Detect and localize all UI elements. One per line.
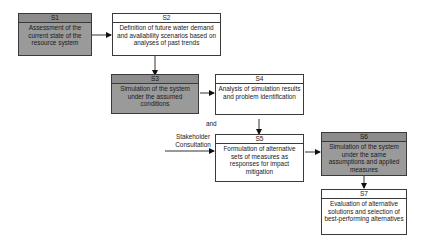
- step-s6-label: S6: [322, 133, 406, 142]
- step-s1-text: Assessment of the current state of the r…: [19, 23, 91, 48]
- step-s5-text: Formulation of alternative sets of measu…: [216, 144, 303, 176]
- step-s3-label: S3: [112, 75, 198, 84]
- and-label: and: [206, 120, 217, 128]
- step-s2: S2 Definition of future water demand and…: [112, 13, 221, 56]
- step-s2-label: S2: [113, 14, 220, 23]
- step-s5-label: S5: [216, 135, 303, 144]
- step-s2-text: Definition of future water demand and av…: [113, 23, 220, 48]
- step-s5: S5 Formulation of alternative sets of me…: [215, 134, 304, 182]
- step-s6-text: Simulation of the system under the same …: [322, 142, 406, 174]
- step-s4-text: Analysis of simulation results and probl…: [216, 84, 303, 101]
- step-s6: S6 Simulation of the system under the sa…: [321, 132, 407, 176]
- step-s1: S1 Assessment of the current state of th…: [18, 13, 92, 56]
- step-s4: S4 Analysis of simulation results and pr…: [215, 74, 304, 115]
- step-s7-text: Evaluation of alternative solutions and …: [322, 199, 406, 224]
- step-s3: S3 Simulation of the system under the as…: [111, 74, 199, 114]
- step-s7: S7 Evaluation of alternative solutions a…: [321, 189, 407, 235]
- step-s1-label: S1: [19, 14, 91, 23]
- step-s3-text: Simulation of the system under the assum…: [112, 84, 198, 109]
- step-s4-label: S4: [216, 75, 303, 84]
- stakeholder-consultation-label: Stakeholder Consultation: [170, 133, 216, 148]
- step-s7-label: S7: [322, 190, 406, 199]
